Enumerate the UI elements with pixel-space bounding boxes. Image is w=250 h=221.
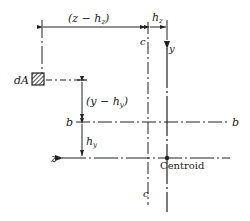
label-dA: dA: [14, 74, 29, 87]
label-b-left: b: [66, 116, 73, 129]
section-diagram: (z − hz) hz c y dA (y − hy) b b hy z Cen…: [0, 0, 250, 221]
label-b-right: b: [232, 116, 239, 129]
label-y-minus-hy: (y − hy): [86, 95, 128, 109]
dA-element-icon: [32, 73, 44, 85]
label-centroid: Centroid: [160, 160, 205, 171]
label-c-bottom: c: [143, 188, 149, 199]
label-hy: hy: [86, 135, 98, 149]
label-c-top: c: [140, 36, 146, 47]
label-y-axis: y: [168, 43, 175, 54]
label-hz: hz: [152, 11, 163, 25]
label-z-minus-hz: (z − hz): [68, 12, 109, 26]
label-z-axis: z: [50, 152, 57, 165]
